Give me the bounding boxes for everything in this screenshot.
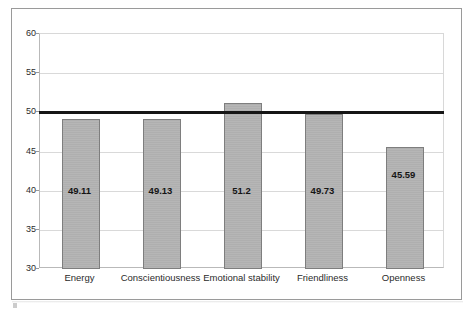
y-tick-label: 40 — [0, 185, 36, 194]
bar-value-label: 49.13 — [149, 186, 173, 196]
y-axis: 30354045505560 — [0, 33, 36, 268]
bar-value-label: 51.2 — [232, 186, 251, 196]
y-tick-label: 30 — [0, 264, 36, 273]
scan-edge-shadow — [12, 301, 463, 303]
bar-value-label: 49.73 — [311, 186, 335, 196]
y-tick-label: 45 — [0, 146, 36, 155]
chart-screenshot: 30354045505560 49.11Energy49.13Conscient… — [0, 0, 467, 312]
category-label: Openness — [382, 273, 425, 283]
reference-line — [39, 111, 444, 114]
y-tick-mark — [36, 268, 39, 269]
scan-edge-mark — [13, 303, 17, 308]
plot-area — [39, 33, 444, 268]
bar[interactable] — [386, 147, 424, 269]
y-tick-label: 50 — [0, 107, 36, 116]
category-label: Emotional stability — [203, 273, 280, 283]
category-label: Friendliness — [297, 273, 348, 283]
y-tick-label: 35 — [0, 224, 36, 233]
category-label: Energy — [64, 273, 94, 283]
y-tick-label: 55 — [0, 68, 36, 77]
bar-value-label: 45.59 — [392, 170, 416, 180]
category-label: Conscientiousness — [121, 273, 201, 283]
gridline — [40, 73, 443, 74]
y-tick-label: 60 — [0, 29, 36, 38]
bar-value-label: 49.11 — [68, 186, 91, 196]
